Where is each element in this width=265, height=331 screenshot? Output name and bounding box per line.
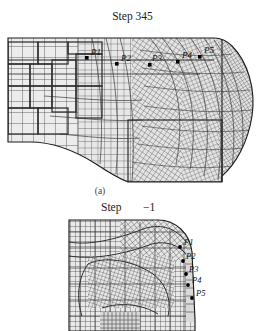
label-p2: P2 xyxy=(120,53,131,63)
marker-p1[interactable] xyxy=(178,245,182,249)
marker-p3[interactable] xyxy=(184,272,188,276)
label-p4: P4 xyxy=(191,275,202,285)
figure-a-mesh-canvas: P1 P2 P3 P4 P5 xyxy=(0,24,265,186)
label-p1: P1 xyxy=(90,47,101,57)
figure-b-bottom-cluster xyxy=(100,312,140,331)
figure-b-mesh-svg: P1 P2 P3 P4 P5 xyxy=(0,216,265,331)
marker-p4[interactable] xyxy=(186,283,190,287)
figure-b-title-prefix: Step xyxy=(101,200,121,214)
marker-p4[interactable] xyxy=(176,60,180,64)
figure-a: Step 345 xyxy=(0,10,265,200)
cut-off-text: 的 示例 , 节 点数 和 单 元 数 分 别 为 xyxy=(0,0,118,1)
label-p4: P4 xyxy=(181,50,192,60)
marker-p3[interactable] xyxy=(148,63,152,67)
marker-p1[interactable] xyxy=(85,56,89,60)
figure-b: Step −1 xyxy=(0,200,265,331)
label-p2: P2 xyxy=(185,251,196,261)
marker-p2[interactable] xyxy=(115,62,119,66)
figure-b-mesh-canvas: P1 P2 P3 P4 P5 xyxy=(0,216,265,331)
figure-a-mesh-zones xyxy=(0,24,265,186)
label-p1: P1 xyxy=(183,237,193,247)
label-p5: P5 xyxy=(195,288,205,298)
figure-b-title: Step −1 xyxy=(0,200,265,214)
label-p5: P5 xyxy=(203,45,214,55)
marker-p5[interactable] xyxy=(198,55,202,59)
label-p3: P3 xyxy=(151,53,162,63)
figure-a-title: Step 345 xyxy=(0,10,265,23)
label-p3: P3 xyxy=(188,264,198,274)
marker-p2[interactable] xyxy=(181,259,185,263)
marker-p5[interactable] xyxy=(190,296,194,300)
figure-b-title-value: −1 xyxy=(143,200,155,214)
cut-off-text-sliver: 的 示例 , 节 点数 和 单 元 数 分 别 为 xyxy=(0,0,118,9)
figure-a-caption: (a) xyxy=(0,186,200,196)
figure-a-mesh-svg: P1 P2 P3 P4 P5 xyxy=(0,24,265,186)
